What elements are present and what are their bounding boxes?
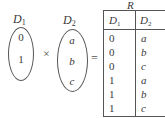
table-cell: a	[141, 33, 147, 44]
table-cell: 1	[109, 103, 115, 114]
equals-operator: =	[91, 52, 98, 64]
column-header-d2: D2	[140, 15, 151, 30]
table-cell: b	[141, 47, 147, 58]
table-cell: c	[141, 61, 146, 72]
table-cell: c	[141, 103, 146, 114]
set-d2-element: a	[62, 35, 82, 46]
set-d2-element: c	[62, 76, 82, 87]
table-cell: 1	[109, 75, 115, 86]
column-header-d1: D1	[109, 15, 120, 30]
relation-table: D1 D2 0 a 0 b 0 c 1 a 1 b 1 c	[103, 10, 165, 117]
table-cell: b	[141, 89, 147, 100]
table-cell: 1	[109, 89, 115, 100]
set-d2-label: D2	[63, 14, 76, 30]
column-divider	[135, 11, 136, 116]
set-d1-element: 0	[11, 32, 31, 43]
table-cell: a	[141, 75, 147, 86]
set-d1-element: 1	[11, 54, 31, 65]
table-cell: 0	[109, 33, 115, 44]
table-cell: 0	[109, 47, 115, 58]
cartesian-product-operator: ×	[43, 48, 50, 60]
set-d2-element: b	[62, 56, 82, 67]
table-cell: 0	[109, 61, 115, 72]
